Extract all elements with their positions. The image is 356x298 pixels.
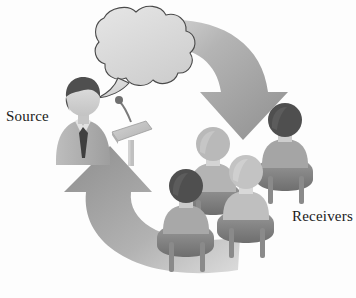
speech-bubble bbox=[95, 6, 195, 98]
microphone bbox=[115, 96, 131, 122]
speaker-figure bbox=[56, 77, 110, 165]
diagram-canvas: Source Receivers bbox=[0, 0, 356, 298]
communication-cycle-illustration bbox=[0, 0, 356, 298]
receivers-label: Receivers bbox=[292, 208, 353, 225]
receiver-back-right bbox=[256, 103, 313, 204]
source-label: Source bbox=[6, 108, 49, 125]
